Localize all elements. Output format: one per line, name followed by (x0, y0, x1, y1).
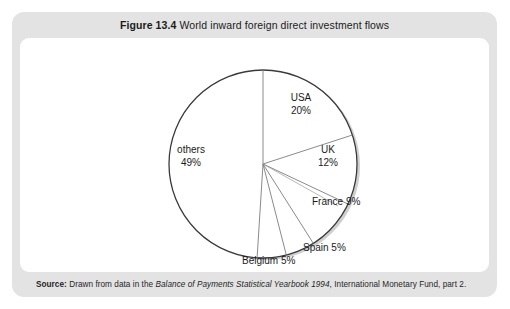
figure-title: Figure 13.4 World inward foreign direct … (12, 12, 497, 38)
pie-label-france: France 9% (312, 196, 360, 209)
pie-label-usa-name: USA (291, 92, 312, 103)
pie-label-usa-value: 20% (278, 105, 324, 118)
figure-frame: Figure 13.4 World inward foreign direct … (12, 12, 497, 297)
pie-label-belgium-text: Belgium 5% (242, 255, 295, 266)
figure-number: Figure 13.4 (120, 19, 177, 31)
pie-label-uk: UK 12% (308, 144, 348, 169)
pie-label-spain: Spain 5% (303, 242, 346, 255)
source-label: Source: (36, 280, 67, 289)
source-note: Source: Drawn from data in the Balance o… (12, 272, 497, 297)
pie-label-spain-text: Spain 5% (303, 242, 346, 253)
source-text-before: Drawn from data in the (69, 280, 153, 289)
pie-chart-graphic (20, 38, 489, 272)
figure-title-text: World inward foreign direct investment f… (179, 19, 389, 31)
pie-label-belgium: Belgium 5% (242, 255, 295, 268)
pie-label-others-value: 49% (164, 157, 218, 170)
pie-label-others: others 49% (164, 144, 218, 169)
pie-label-others-name: others (177, 144, 205, 155)
chart-panel: USA 20% UK 12% France 9% Spain 5% Belgiu… (20, 38, 489, 272)
pie-label-uk-name: UK (321, 144, 335, 155)
source-publication-title: Balance of Payments Statistical Yearbook… (155, 280, 329, 289)
source-text-after: , International Monetary Fund, part 2. (330, 280, 467, 289)
pie-label-usa: USA 20% (278, 92, 324, 117)
pie-label-france-text: France 9% (312, 196, 360, 207)
pie-label-uk-value: 12% (308, 157, 348, 170)
